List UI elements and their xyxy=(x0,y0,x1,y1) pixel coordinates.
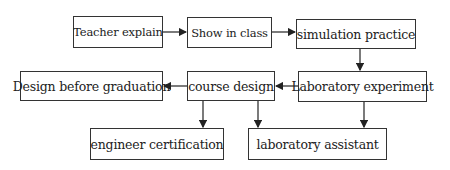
node-show-in-class: Show in class xyxy=(187,17,272,48)
node-laboratory-assistant: laboratory assistant xyxy=(248,128,387,160)
node-teacher-explain: Teacher explain xyxy=(73,16,163,48)
node-course-design: course design xyxy=(187,71,275,101)
node-engineer-certification: engineer certification xyxy=(90,128,224,160)
node-design-before-graduation: Design before graduation xyxy=(20,71,163,101)
node-simulation-practice: simulation practice xyxy=(296,19,416,49)
node-laboratory-experiment: Laboratory experiment xyxy=(298,71,427,102)
